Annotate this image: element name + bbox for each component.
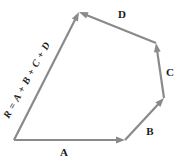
vector-arrowhead-a (116, 137, 125, 144)
vector-arrowhead-r (72, 12, 79, 22)
vector-label-a: A (60, 147, 68, 158)
vector-label-d: D (118, 9, 126, 20)
vector-label-c: C (166, 67, 174, 78)
vector-shaft-c (157, 49, 164, 98)
vector-group (14, 12, 164, 143)
vector-arrowhead-c (154, 43, 161, 52)
vector-arrowhead-d (79, 12, 89, 19)
vector-addition-diagram: A B C D R = A + B + C + D (0, 0, 182, 162)
vector-shaft-b (125, 103, 160, 140)
vector-label-b: B (146, 126, 154, 137)
